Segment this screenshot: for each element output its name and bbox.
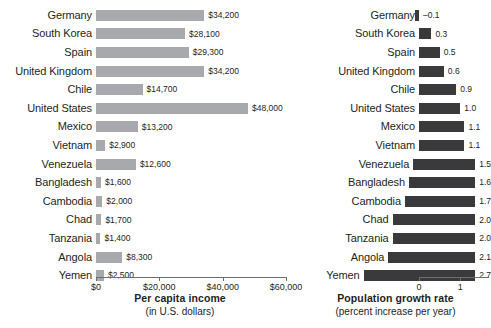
bar-track: 2.7 [364, 266, 491, 285]
growth-bar [405, 196, 475, 207]
income-value-label: $1,600 [105, 178, 131, 187]
growth-bar [393, 214, 476, 225]
growth-value-label: –0.1 [423, 11, 440, 20]
growth-axis-title: Population growth rate (percent increase… [300, 292, 491, 319]
bar-row: Cambodia$2,000 [0, 192, 300, 211]
growth-category-label: Germany [300, 10, 419, 21]
growth-value-label: 1.1 [468, 123, 480, 132]
bar-track: –0.1 [419, 6, 491, 25]
income-value-label: $34,200 [208, 11, 239, 20]
bar-row: Spain0.5 [300, 43, 491, 62]
bar-track: 2.0 [393, 229, 491, 248]
income-bar [96, 196, 102, 207]
income-category-label: Chad [0, 214, 96, 225]
bar-row: Spain$29,300 [0, 43, 300, 62]
axis-tick-label: 1 [458, 282, 463, 292]
income-bar [96, 28, 185, 39]
bar-row: United States$48,000 [0, 99, 300, 118]
bar-row: Venezuela1.5 [300, 155, 491, 174]
bar-track: 1.7 [405, 192, 491, 211]
bar-row: Vietnam$2,900 [0, 136, 300, 155]
income-category-label: Bangladesh [0, 177, 96, 188]
income-category-label: Angola [0, 252, 96, 263]
bar-row: Chad$1,700 [0, 211, 300, 230]
growth-category-label: Tanzania [300, 233, 393, 244]
bar-track: $2,000 [96, 192, 300, 211]
income-bar [96, 252, 122, 263]
bar-track: 2.1 [388, 248, 491, 267]
income-bar [96, 121, 138, 132]
growth-value-label: 0.9 [460, 85, 472, 94]
growth-x-axis-ticks: 0123 [419, 277, 489, 281]
bar-track: $34,200 [96, 6, 300, 25]
growth-bar [419, 28, 431, 39]
growth-category-label: Cambodia [300, 196, 405, 207]
bar-track: $13,200 [96, 118, 300, 137]
axis-tick-label: $20,000 [143, 282, 176, 292]
axis-tick-label: $40,000 [206, 282, 239, 292]
bar-row: Tanzania2.0 [300, 229, 491, 248]
growth-bar [419, 121, 464, 132]
growth-category-label: Bangladesh [300, 177, 409, 188]
income-bar [96, 84, 143, 95]
income-category-label: Spain [0, 47, 96, 58]
bar-row: United States1.0 [300, 99, 491, 118]
income-value-label: $13,200 [142, 123, 173, 132]
growth-category-label: Vietnam [300, 140, 419, 151]
growth-category-label: Chad [300, 214, 393, 225]
income-value-label: $1,700 [105, 216, 131, 225]
income-category-label: United Kingdom [0, 66, 96, 77]
bar-row: South Korea0.3 [300, 25, 491, 44]
income-bar [96, 140, 105, 151]
axis-tick-label: $0 [91, 282, 101, 292]
bar-row: Chile0.9 [300, 80, 491, 99]
bar-row: Germany$34,200 [0, 6, 300, 25]
growth-axis-title-main: Population growth rate [300, 292, 491, 305]
bar-row: South Korea$28,100 [0, 25, 300, 44]
growth-bar [419, 140, 464, 151]
income-category-label: Chile [0, 84, 96, 95]
bar-track: 1.0 [419, 99, 491, 118]
income-bar-rows: Germany$34,200South Korea$28,100Spain$29… [0, 6, 300, 285]
population-growth-chart-panel: Germany–0.1South Korea0.3Spain0.5United … [300, 0, 491, 328]
bar-row: Chile$14,700 [0, 80, 300, 99]
income-bar [96, 233, 100, 244]
income-axis-title: Per capita income (in U.S. dollars) [60, 292, 300, 319]
income-axis-title-main: Per capita income [60, 292, 300, 305]
growth-bar [413, 159, 475, 170]
bar-track: 0.3 [419, 25, 491, 44]
growth-value-label: 2.0 [479, 234, 491, 243]
axis-tick [96, 277, 97, 281]
bar-row: United Kingdom$34,200 [0, 62, 300, 81]
growth-bar [419, 84, 456, 95]
growth-value-label: 1.5 [479, 160, 491, 169]
bar-track: $1,400 [96, 229, 300, 248]
growth-category-label: United Kingdom [300, 66, 419, 77]
axis-tick [159, 277, 160, 281]
growth-value-label: 0.3 [435, 30, 447, 39]
income-value-label: $48,000 [252, 104, 283, 113]
growth-category-label: Venezuela [300, 159, 413, 170]
income-category-label: Germany [0, 10, 96, 21]
income-category-label: South Korea [0, 28, 96, 39]
income-category-label: Mexico [0, 121, 96, 132]
income-category-label: Yemen [0, 270, 96, 281]
bar-row: United Kingdom0.6 [300, 62, 491, 81]
axis-tick-label: 0 [416, 282, 421, 292]
income-value-label: $8,300 [126, 253, 152, 262]
growth-value-label: 0.6 [448, 67, 460, 76]
growth-bar [393, 233, 476, 244]
bar-row: Germany–0.1 [300, 6, 491, 25]
axis-tick [460, 277, 461, 281]
growth-axis-title-sub: (percent increase per year) [300, 306, 491, 319]
bar-track: $8,300 [96, 248, 300, 267]
income-bar [96, 10, 204, 21]
income-value-label: $2,900 [109, 141, 135, 150]
growth-bar-rows: Germany–0.1South Korea0.3Spain0.5United … [300, 6, 491, 285]
income-value-label: $2,000 [106, 197, 132, 206]
income-bar [96, 103, 248, 114]
per-capita-income-chart-panel: Germany$34,200South Korea$28,100Spain$29… [0, 0, 300, 328]
bar-row: Venezuela$12,600 [0, 155, 300, 174]
bar-row: Cambodia1.7 [300, 192, 491, 211]
bar-track: $14,700 [96, 80, 300, 99]
